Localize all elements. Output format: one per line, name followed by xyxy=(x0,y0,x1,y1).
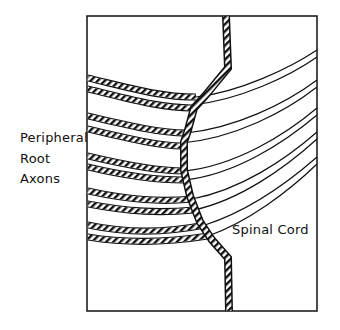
diagram-canvas xyxy=(0,0,340,330)
root-label: Root xyxy=(20,152,50,165)
axon-3 xyxy=(88,108,317,183)
axon-2 xyxy=(88,80,317,149)
spinal-cord-label: Spinal Cord xyxy=(232,223,309,236)
peripheral-label: Peripheral xyxy=(20,131,88,144)
axons xyxy=(88,50,317,244)
spinal-cord-boundary xyxy=(184,16,229,311)
axons-label: Axons xyxy=(20,172,60,185)
